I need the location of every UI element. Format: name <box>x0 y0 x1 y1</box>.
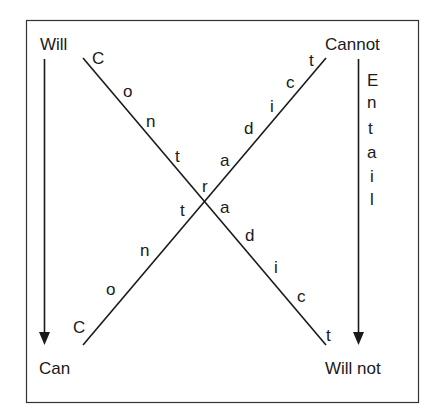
letter: t <box>309 51 314 70</box>
label-can: Can <box>39 359 70 378</box>
label-will: Will <box>40 35 67 54</box>
contradict-text-bl-tr: C o n t a d i c t <box>73 51 314 337</box>
letter: C <box>73 318 85 337</box>
letter: t <box>180 201 185 220</box>
letter: l <box>370 190 374 209</box>
letter: o <box>106 280 115 299</box>
label-cannot: Cannot <box>325 35 380 54</box>
letter: t <box>368 119 373 138</box>
arrowhead-icon <box>39 332 50 345</box>
label-will-not: Will not <box>325 359 381 378</box>
letter: C <box>92 49 104 68</box>
letter: c <box>297 287 306 306</box>
letter: c <box>286 73 295 92</box>
letter: a <box>220 198 230 217</box>
letter: a <box>367 143 377 162</box>
left-entail-arrow <box>39 59 50 345</box>
letter: d <box>245 226 254 245</box>
letter: d <box>244 119 253 138</box>
letter: o <box>123 82 132 101</box>
letter: t <box>175 147 180 166</box>
square-of-opposition-diagram: Will Cannot Can Will not C o n t r a d i… <box>0 0 436 418</box>
right-entail-arrow <box>353 59 364 345</box>
letter: i <box>370 167 374 186</box>
letter: r <box>202 177 208 196</box>
letter: n <box>367 93 376 112</box>
letter: n <box>146 112 155 131</box>
letter: i <box>274 258 278 277</box>
letter: i <box>270 97 274 116</box>
entail-text-vertical: E n t a i l <box>367 71 378 209</box>
letter: a <box>220 151 230 170</box>
letter: E <box>367 71 378 90</box>
arrowhead-icon <box>353 332 364 345</box>
letter: n <box>140 241 149 260</box>
letter: t <box>326 326 331 345</box>
